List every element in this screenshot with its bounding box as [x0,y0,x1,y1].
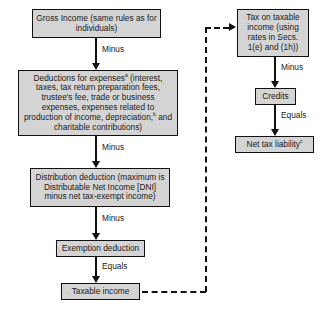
dashed-connector-segment-vertical [205,27,207,292]
operator-label-equals-2: Equals [281,110,306,120]
arrowhead-to-net-tax-liability [271,129,279,136]
arrowhead-to-taxable-income [92,276,100,283]
node-exemption-deduction: Exemption deduction [56,240,145,257]
node-tax-on-taxable-income-label: Tax on taxable income (using rates in Se… [241,13,305,52]
footnote-marker-c: c [300,138,303,144]
node-exemption-deduction-label: Exemption deduction [62,244,140,254]
connector-gross-income-to-deductions [95,38,97,63]
connector-deductions-to-distribution [95,136,97,161]
operator-label-minus-3: Minus [102,213,124,223]
operator-label-minus-4: Minus [281,62,303,72]
node-credits-label: Credits [262,92,288,102]
arrowhead-to-tax-on-taxable-income [229,23,236,31]
connector-credits-to-net-tax-liability [274,105,276,129]
node-distribution-deduction-label: Distribution deduction (maximum is Distr… [34,173,166,202]
node-tax-on-taxable-income: Tax on taxable income (using rates in Se… [237,9,309,57]
arrowhead-to-distribution [92,161,100,168]
node-taxable-income: Taxable income [61,283,140,300]
connector-exemption-to-taxable-income [95,257,97,276]
dashed-connector-segment-top [205,27,229,29]
deductions-text-part-1: Deductions for expenses [34,73,125,83]
net-tax-liability-text: Net tax liability [246,139,300,149]
node-deductions-for-expenses: Deductions for expensesa (interest, taxe… [18,70,178,136]
dashed-connector-segment-bottom [142,291,206,293]
operator-label-minus-1: Minus [102,44,124,54]
node-distribution-deduction: Distribution deduction (maximum is Distr… [30,168,170,207]
node-net-tax-liability: Net tax liabilityc [235,136,314,153]
node-credits: Credits [255,88,296,105]
arrowhead-to-exemption [92,233,100,240]
operator-label-equals-1: Equals [102,261,127,271]
operator-label-minus-2: Minus [102,142,124,152]
connector-tax-to-credits [274,57,276,81]
node-taxable-income-label: Taxable income [72,287,130,297]
node-net-tax-liability-label: Net tax liabilityc [246,140,302,150]
arrowhead-to-credits [271,81,279,88]
arrowhead-to-deductions [92,63,100,70]
node-gross-income: Gross Income (same rules as for individu… [32,9,161,38]
flowchart-canvas: Gross Income (same rules as for individu… [0,0,330,316]
node-gross-income-label: Gross Income (same rules as for individu… [36,14,157,34]
node-deductions-label: Deductions for expensesa (interest, taxe… [22,74,174,133]
connector-distribution-to-exemption [95,207,97,233]
